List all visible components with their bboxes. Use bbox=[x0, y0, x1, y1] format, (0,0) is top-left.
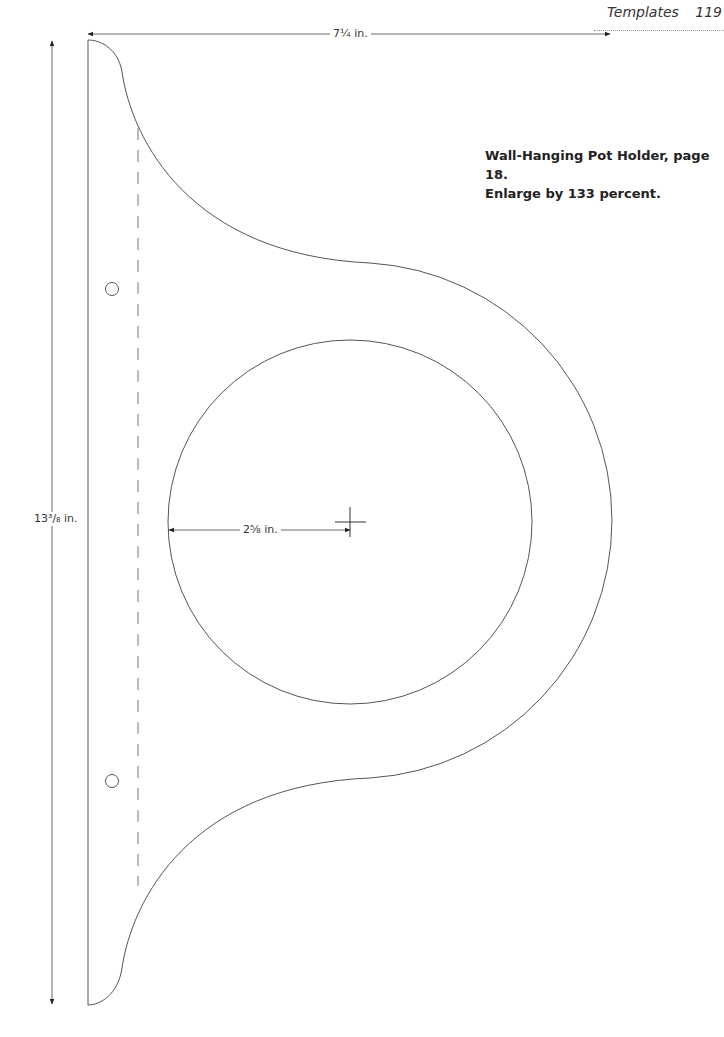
template-caption: Wall-Hanging Pot Holder, page 18. Enlarg… bbox=[485, 146, 724, 203]
caption-instruction: Enlarge by 133 percent. bbox=[485, 184, 724, 203]
radius-label: 2⅝ in. bbox=[240, 523, 281, 537]
caption-title: Wall-Hanging Pot Holder, page 18. bbox=[485, 146, 724, 184]
width-label: 7¼ in. bbox=[330, 27, 371, 41]
height-label: 13³/₈ in. bbox=[31, 512, 81, 526]
hanging-hole-top bbox=[106, 283, 119, 296]
hanging-hole-bottom bbox=[106, 775, 119, 788]
